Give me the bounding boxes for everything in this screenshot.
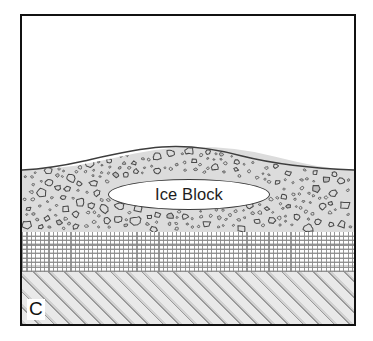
ice-block-label: Ice Block bbox=[155, 186, 223, 203]
cross-section-panel: Ice Block C bbox=[20, 14, 356, 326]
ice-block-lens: Ice Block bbox=[108, 179, 270, 210]
figure-root: Ice Block C bbox=[0, 0, 373, 341]
panel-letter: C bbox=[27, 299, 45, 320]
layer-bedrock bbox=[22, 271, 354, 324]
layer-sand bbox=[22, 231, 354, 272]
layer-stack bbox=[22, 16, 354, 324]
